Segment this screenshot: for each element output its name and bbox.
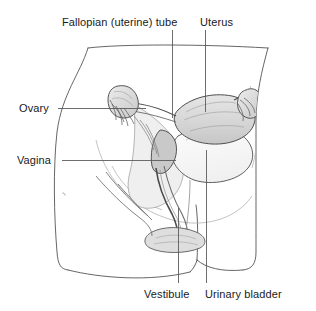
left-body-edge — [54, 48, 88, 270]
waistline — [88, 45, 268, 48]
skin-fold-mark — [63, 193, 65, 195]
label-uterus: Uterus — [200, 16, 233, 28]
vestibule-region — [145, 228, 205, 253]
label-urinary-bladder: Urinary bladder — [205, 288, 282, 300]
label-vagina: Vagina — [17, 154, 51, 166]
label-fallopian-tube: Fallopian (uterine) tube — [62, 16, 178, 28]
right-thigh-bottom — [197, 260, 243, 271]
perineum-junction — [190, 260, 197, 272]
label-ovary: Ovary — [19, 102, 49, 114]
pelvic-contents-group — [96, 86, 262, 253]
label-vestibule: Vestibule — [144, 288, 190, 300]
left-thigh-bottom — [68, 270, 190, 278]
anatomy-figure: Fallopian (uterine) tube Uterus Ovary Va… — [0, 0, 316, 311]
